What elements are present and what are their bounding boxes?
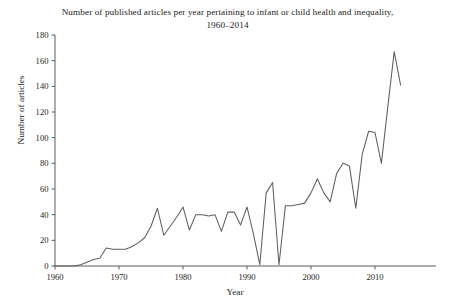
y-tick-label: 20 (40, 235, 49, 245)
x-tick-label: 1960 (46, 272, 63, 282)
line-chart-plot: 020406080100120140160180 196019701980199… (0, 0, 449, 308)
x-tick-label: 1990 (238, 272, 255, 282)
y-tick-label: 140 (36, 81, 49, 91)
y-tick-label: 120 (36, 107, 49, 117)
y-tick-label: 180 (36, 30, 49, 40)
x-tick-label: 2000 (302, 272, 319, 282)
x-axis-ticks: 196019701980199020002010 (46, 266, 383, 282)
y-tick-label: 0 (44, 261, 48, 271)
x-tick-label: 2010 (366, 272, 383, 282)
y-tick-label: 40 (40, 210, 49, 220)
chart-figure: Number of published articles per year pe… (0, 0, 449, 308)
y-axis-ticks: 020406080100120140160180 (36, 30, 55, 271)
data-series-line (55, 52, 401, 266)
x-tick-label: 1980 (174, 272, 191, 282)
y-tick-label: 100 (36, 133, 49, 143)
y-tick-label: 60 (40, 184, 49, 194)
x-tick-label: 1970 (110, 272, 127, 282)
y-tick-label: 80 (40, 158, 49, 168)
y-tick-label: 160 (36, 56, 49, 66)
